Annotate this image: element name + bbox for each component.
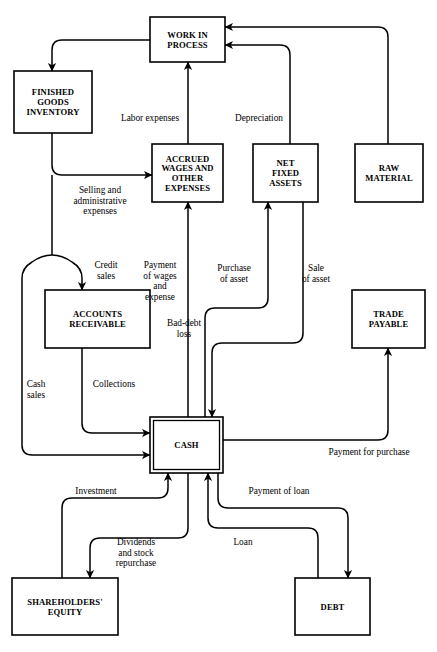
node-label-debt: DEBT bbox=[321, 602, 345, 612]
edge-label-payment-of-wages: Paymentof wagesandexpense bbox=[143, 260, 177, 302]
edge-label-dividends: Dividendsand stockrepurchase bbox=[116, 537, 156, 568]
node-label-trade-payable: TRADEPAYABLE bbox=[369, 309, 409, 329]
edge-label-labor-expenses: Labor expenses bbox=[121, 113, 179, 123]
node-net-fixed-assets[interactable]: NETFIXEDASSETS bbox=[253, 144, 318, 202]
edge-label-collections: Collections bbox=[93, 379, 136, 389]
flowchart-svg: WORK INPROCESSFINISHEDGOODSINVENTORYACCR… bbox=[0, 0, 437, 652]
edge-label-purchase-of-asset: Purchaseof asset bbox=[217, 263, 251, 284]
flowchart-canvas: WORK INPROCESSFINISHEDGOODSINVENTORYACCR… bbox=[0, 0, 437, 652]
node-accounts-receivable[interactable]: ACCOUNTSRECEIVABLE bbox=[45, 290, 150, 348]
node-cash[interactable]: CASH bbox=[150, 417, 223, 473]
node-label-accrued-wages: ACCRUEDWAGES ANDOTHEREXPENSES bbox=[161, 154, 213, 193]
node-debt[interactable]: DEBT bbox=[295, 578, 370, 635]
edge-label-payment-of-loan: Payment of loan bbox=[249, 486, 310, 496]
edge-label-selling-admin: Selling andadministrativeexpenses bbox=[73, 185, 126, 216]
connector-selling-admin bbox=[52, 133, 152, 175]
connector-sale-of-asset bbox=[212, 202, 303, 417]
connector-wip-to-fgi bbox=[52, 40, 150, 71]
edge-label-bad-debt-loss: Bad-debtloss bbox=[167, 318, 201, 339]
connector-payment-for-purchase bbox=[223, 348, 388, 440]
node-trade-payable[interactable]: TRADEPAYABLE bbox=[352, 290, 425, 348]
edge-label-loan: Loan bbox=[233, 537, 252, 547]
connector-purchase-of-asset bbox=[205, 202, 268, 417]
node-finished-goods[interactable]: FINISHEDGOODSINVENTORY bbox=[14, 71, 92, 133]
edge-label-payment-for-purchase: Payment for purchase bbox=[328, 447, 409, 457]
connector-cash-sales bbox=[22, 255, 150, 455]
edge-label-sale-of-asset: Saleof asset bbox=[302, 263, 331, 284]
edge-label-investment: Investment bbox=[75, 486, 117, 496]
edge-label-cash-sales: Cashsales bbox=[27, 379, 46, 400]
connector-collections bbox=[82, 348, 150, 433]
node-shareholders-equity[interactable]: SHAREHOLDERS'EQUITY bbox=[12, 578, 118, 635]
node-label-cash: CASH bbox=[174, 440, 198, 450]
node-raw-material[interactable]: RAWMATERIAL bbox=[355, 144, 423, 202]
node-label-work-in-process: WORK INPROCESS bbox=[167, 30, 208, 50]
edge-label-credit-sales: Creditsales bbox=[94, 260, 118, 281]
connector-depreciation bbox=[225, 45, 290, 144]
edge-label-depreciation: Depreciation bbox=[235, 113, 283, 123]
node-work-in-process[interactable]: WORK INPROCESS bbox=[150, 17, 225, 62]
node-label-accounts-receivable: ACCOUNTSRECEIVABLE bbox=[69, 309, 126, 329]
node-accrued-wages[interactable]: ACCRUEDWAGES ANDOTHEREXPENSES bbox=[152, 144, 223, 202]
nodes-layer: WORK INPROCESSFINISHEDGOODSINVENTORYACCR… bbox=[12, 17, 425, 635]
connector-credit-sales bbox=[52, 255, 82, 290]
